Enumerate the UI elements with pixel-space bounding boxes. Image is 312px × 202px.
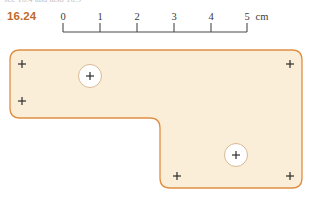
bracket-diagram: [0, 0, 312, 202]
bracket-outline: [10, 50, 302, 188]
figure-container: sec 16.4 and also 16.9 16.24 012345cm: [0, 0, 312, 202]
